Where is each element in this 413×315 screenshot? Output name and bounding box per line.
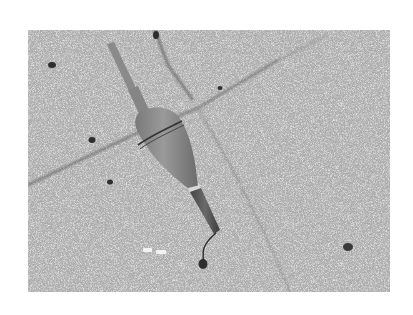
photograph [28,30,390,292]
granite-light-speckles [28,30,390,292]
photo-scene [28,30,390,292]
